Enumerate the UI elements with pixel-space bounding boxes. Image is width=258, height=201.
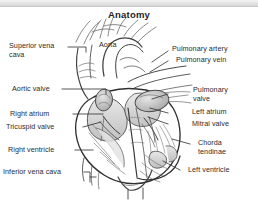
leader-pulmonary-artery	[152, 51, 168, 62]
leader-pulmonary-valve	[152, 94, 168, 99]
leader-mitral-valve	[148, 117, 168, 124]
leader-chorda-tendinae	[172, 139, 190, 144]
leader-pulmonary-vein	[150, 61, 168, 72]
anatomy-figure: Anatomy	[0, 0, 258, 201]
leader-tricuspid-valve	[83, 122, 101, 127]
label-right-ventricle: Right ventricle	[8, 146, 76, 155]
label-left-atrium: Left atrium	[192, 108, 256, 117]
label-inferior-vena-cava: Inferior vena cava	[3, 168, 85, 177]
label-aorta: Aorta	[99, 41, 133, 50]
label-right-atrium: Right atrium	[10, 110, 72, 119]
leader-aortic-valve	[62, 89, 106, 94]
leader-left-ventricle	[163, 161, 180, 170]
label-pulmonary-vein: Pulmonary vein	[176, 56, 258, 65]
label-aortic-valve: Aortic valve	[12, 85, 68, 94]
label-superior-vena-cava: Superior vena cava	[9, 42, 71, 59]
label-left-ventricle: Left ventricle	[188, 166, 256, 175]
label-pulmonary-artery: Pulmonary artery	[172, 45, 256, 54]
label-pulmonary-valve: Pulmonary valve	[193, 86, 255, 103]
label-chorda-tendinae: Chorda tendinae	[198, 139, 254, 156]
label-mitral-valve: Mitral valve	[192, 120, 258, 129]
leader-left-atrium	[150, 108, 168, 113]
label-tricuspid-valve: Tricuspid valve	[6, 123, 82, 132]
